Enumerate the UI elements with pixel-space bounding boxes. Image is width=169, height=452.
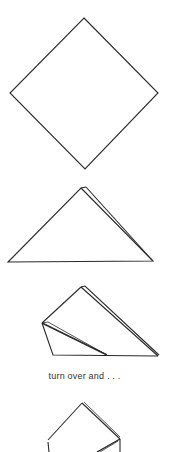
- origami-instruction-diagram: [0, 0, 169, 452]
- step-1-diamond: [10, 18, 158, 169]
- step-3-folded-corner: [42, 286, 159, 356]
- instruction-caption: turn over and . . .: [0, 371, 169, 381]
- step-2-triangle: [8, 187, 153, 262]
- step-4-turned-over: [48, 402, 120, 452]
